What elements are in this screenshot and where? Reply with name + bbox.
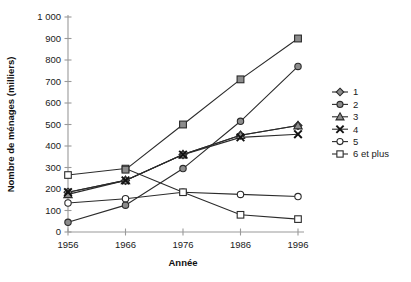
y-axis-tick-label: 600 bbox=[45, 97, 61, 108]
y-axis-tick-label: 800 bbox=[45, 54, 61, 65]
y-axis-tick-label: 700 bbox=[45, 76, 61, 87]
series-line bbox=[68, 134, 298, 192]
legend-item-label: 3 bbox=[353, 111, 358, 122]
y-axis-tick-label: 0 bbox=[56, 226, 61, 237]
circle-marker-icon bbox=[337, 101, 343, 107]
y-axis-tick-label: 500 bbox=[45, 119, 61, 130]
square-open-marker-icon bbox=[180, 189, 187, 196]
x-axis-tick-label: 1996 bbox=[287, 239, 308, 250]
circle-open-marker-icon bbox=[337, 139, 343, 145]
series-group bbox=[126, 39, 299, 170]
legend-item[interactable]: 5 bbox=[332, 136, 358, 147]
y-axis-tick-label: 300 bbox=[45, 162, 61, 173]
legend-item[interactable]: 4 bbox=[332, 124, 358, 135]
circle-open-marker-icon bbox=[237, 191, 243, 197]
x-axis-tick-label: 1976 bbox=[172, 239, 193, 250]
circle-marker-icon bbox=[295, 63, 301, 69]
legend-item[interactable]: 2 bbox=[332, 99, 358, 110]
legend-item-label: 4 bbox=[353, 124, 358, 135]
square-marker-icon bbox=[180, 121, 187, 128]
legend-item-label: 6 et plus bbox=[353, 148, 389, 159]
legend-item-label: 5 bbox=[353, 136, 358, 147]
series-group bbox=[68, 134, 298, 192]
circle-marker-icon bbox=[65, 219, 71, 225]
series-markers bbox=[64, 122, 302, 197]
series-line bbox=[68, 66, 298, 222]
legend-item-label: 1 bbox=[353, 86, 358, 97]
circle-open-marker-icon bbox=[122, 195, 128, 201]
chart-container: 01002003004005006007008009001 0001956196… bbox=[0, 0, 411, 282]
square-marker-icon bbox=[122, 166, 129, 173]
y-axis-tick-label: 100 bbox=[45, 205, 61, 216]
series-line bbox=[126, 39, 299, 170]
y-axis-tick-label: 400 bbox=[45, 140, 61, 151]
series-markers bbox=[65, 63, 301, 225]
x-axis-title: Année bbox=[168, 257, 197, 268]
square-open-marker-icon bbox=[237, 212, 244, 219]
x-axis-tick-label: 1986 bbox=[230, 239, 251, 250]
x-axis-tick-label: 1956 bbox=[57, 239, 78, 250]
legend-item-label: 2 bbox=[353, 99, 358, 110]
circle-open-marker-icon bbox=[65, 200, 71, 206]
x-axis-tick-label: 1966 bbox=[115, 239, 136, 250]
legend-item[interactable]: 3 bbox=[332, 111, 358, 122]
line-chart: 01002003004005006007008009001 0001956196… bbox=[0, 0, 411, 282]
square-marker-icon bbox=[237, 76, 244, 83]
y-axis-tick-label: 900 bbox=[45, 33, 61, 44]
y-axis-tick-label: 200 bbox=[45, 183, 61, 194]
circle-marker-icon bbox=[180, 165, 186, 171]
circle-marker-icon bbox=[237, 118, 243, 124]
y-axis-title: Nombre de ménages (milliers) bbox=[5, 57, 16, 193]
y-axis-tick-label: 1 000 bbox=[37, 11, 61, 22]
square-open-marker-icon bbox=[65, 172, 72, 179]
legend-item[interactable]: 1 bbox=[332, 86, 358, 97]
square-marker-icon bbox=[295, 35, 302, 42]
circle-open-marker-icon bbox=[295, 193, 301, 199]
series-group bbox=[68, 66, 298, 222]
diamond-marker-icon bbox=[336, 88, 344, 96]
series-markers bbox=[65, 165, 302, 222]
legend-item[interactable]: 6 et plus bbox=[332, 148, 389, 159]
square-open-marker-icon bbox=[337, 151, 343, 157]
circle-marker-icon bbox=[122, 202, 128, 208]
square-open-marker-icon bbox=[295, 216, 302, 223]
